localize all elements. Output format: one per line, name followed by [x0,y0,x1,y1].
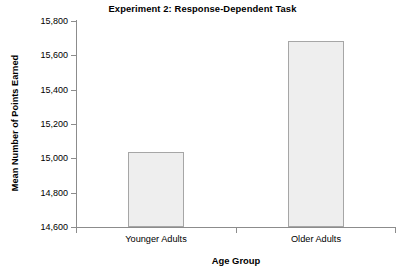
y-axis-tick [71,158,76,159]
y-axis-tick [71,124,76,125]
y-axis-tick [71,90,76,91]
bar [128,152,184,227]
x-axis-tick [395,228,396,233]
y-axis-tick-label: 15,400 [8,86,68,95]
y-axis-tick-label: 14,600 [8,223,68,232]
y-axis-tick [71,193,76,194]
chart-title: Experiment 2: Response-Dependent Task [0,3,405,14]
x-axis-tick [236,228,237,233]
y-axis-tick-label: 15,000 [8,154,68,163]
x-axis-tick [76,228,77,233]
x-axis-title: Age Group [76,255,396,266]
y-axis-tick-label: 15,800 [8,17,68,26]
bar-chart: Experiment 2: Response-Dependent Task Me… [0,0,405,276]
y-axis-tick [71,21,76,22]
y-axis-tick-label: 14,800 [8,189,68,198]
bar [288,41,344,227]
x-axis-category-label: Younger Adults [86,234,226,245]
y-axis-tick-label: 15,200 [8,120,68,129]
y-axis-line [76,20,77,228]
y-axis-tick-label: 15,600 [8,51,68,60]
y-axis-tick [71,55,76,56]
x-axis-category-label: Older Adults [246,234,386,245]
